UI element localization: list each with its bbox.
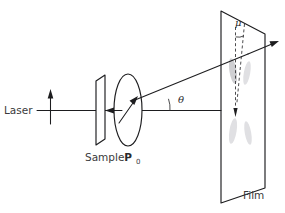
film-plate-surface bbox=[221, 11, 265, 203]
scattered-ray-arrow-head bbox=[270, 41, 280, 47]
back-arrow-head bbox=[105, 108, 114, 114]
diagram-canvas: μ Film Sample P 0 bbox=[0, 0, 285, 213]
polarization-label: P bbox=[124, 151, 132, 163]
sample-plate-surface bbox=[96, 75, 105, 145]
theta-angle-arc bbox=[169, 99, 171, 110]
sample-label: Sample bbox=[85, 151, 124, 163]
polarization-arrow-head bbox=[48, 89, 54, 99]
film-label: Film bbox=[243, 189, 264, 201]
polarization-label-subscript: 0 bbox=[136, 158, 140, 166]
laser-label: Laser bbox=[4, 104, 33, 116]
polarization-indicator bbox=[48, 89, 54, 124]
theta-angle-label: θ bbox=[178, 94, 184, 105]
mu-angle-label: μ bbox=[235, 17, 242, 28]
film-plane: μ Film bbox=[221, 11, 265, 203]
light-scattering-figure: μ Film Sample P 0 bbox=[0, 0, 285, 213]
